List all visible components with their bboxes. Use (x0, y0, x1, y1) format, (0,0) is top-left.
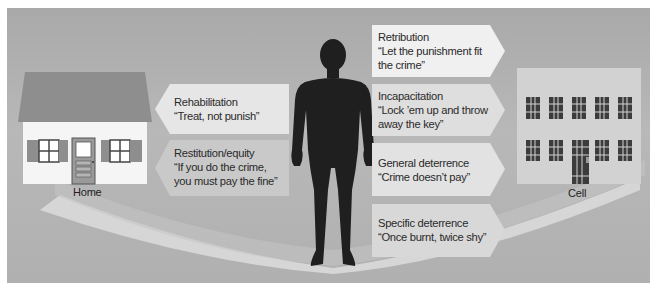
prison-icon (517, 68, 641, 184)
incapacitation-quote-line1: “Lock ’em up and throw (378, 103, 488, 117)
home-label: Home (73, 186, 102, 198)
retribution-text: Retribution “Let the punishment fit the … (378, 30, 482, 72)
retribution-quote-line2: the crime” (378, 58, 482, 72)
rehabilitation-title: Rehabilitation (174, 95, 259, 109)
general-deterrence-title: General deterrence (378, 156, 470, 170)
incapacitation-quote-line2: away the key” (378, 117, 488, 131)
rehabilitation-quote: “Treat, not punish” (174, 109, 259, 123)
diagram-background (7, 8, 650, 283)
house-icon (18, 72, 152, 184)
general-deterrence-quote: “Crime doesn’t pay” (378, 170, 470, 184)
cell-label: Cell (568, 187, 586, 199)
incapacitation-title: Incapacitation (378, 89, 488, 103)
diagram-canvas (7, 8, 650, 283)
restitution-title: Restitution/equity (174, 146, 277, 160)
human-silhouette-icon (291, 39, 374, 266)
retribution-title: Retribution (378, 30, 482, 44)
rehabilitation-text: Rehabilitation “Treat, not punish” (174, 95, 259, 123)
restitution-quote-line2: you must pay the fine” (174, 174, 277, 188)
specific-deterrence-quote: “Once burnt, twice shy” (378, 230, 486, 244)
retribution-quote-line1: “Let the punishment fit (378, 44, 482, 58)
incapacitation-text: Incapacitation “Lock ’em up and throw aw… (378, 89, 488, 131)
general-deterrence-text: General deterrence “Crime doesn’t pay” (378, 156, 470, 184)
specific-deterrence-title: Specific deterrence (378, 216, 486, 230)
restitution-text: Restitution/equity “If you do the crime,… (174, 146, 277, 188)
specific-deterrence-text: Specific deterrence “Once burnt, twice s… (378, 216, 486, 244)
restitution-quote-line1: “If you do the crime, (174, 160, 277, 174)
